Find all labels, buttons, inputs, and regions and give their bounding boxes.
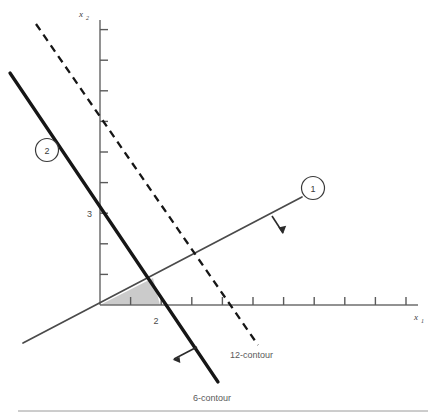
y-axis-label-subscript: 2	[86, 15, 89, 21]
constraint-1-badge-label: 1	[310, 184, 315, 194]
constraint-1-direction-arrow	[272, 216, 286, 234]
constraint-line-1	[23, 197, 302, 343]
constraint-line-2	[10, 73, 218, 382]
constraint-2-badge: 2	[36, 139, 59, 162]
six-contour-label: 6-contour	[193, 393, 231, 403]
lp-graph-canvas: 1 2 x 2 x 1 2 3 12-contour 6-contour	[0, 0, 434, 418]
x-axis-ticks	[131, 297, 406, 305]
x-axis-label-subscript: 1	[421, 318, 424, 324]
y-axis-label: x	[78, 9, 83, 19]
x-axis-label: x	[413, 312, 418, 322]
y-axis-label-group: x 2	[78, 9, 89, 21]
x-axis-label-group: x 1	[413, 312, 424, 324]
x-tick-label-2: 2	[153, 316, 158, 326]
constraint-1-badge: 1	[302, 177, 325, 200]
constraint-2-badge-label: 2	[44, 146, 49, 156]
six-contour-direction-arrow	[173, 347, 197, 363]
twelve-contour-label: 12-contour	[230, 350, 273, 360]
y-tick-label-3: 3	[87, 209, 92, 219]
y-axis-ticks	[100, 30, 108, 275]
lp-graph-figure: 1 2 x 2 x 1 2 3 12-contour 6-contour	[0, 0, 434, 418]
